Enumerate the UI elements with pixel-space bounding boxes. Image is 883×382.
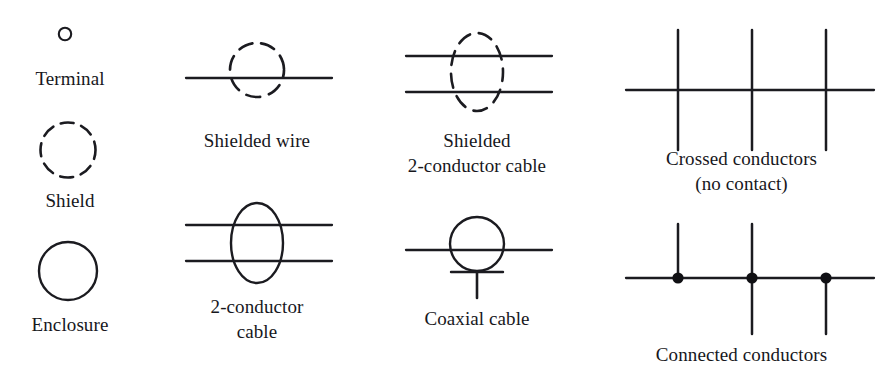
- symbol-shielded-two-conductor-cable-label-line1: Shielded: [372, 128, 582, 153]
- symbol-two-conductor-cable: 2-conductor cable: [152, 198, 362, 348]
- connected-conductors-icon: [600, 216, 883, 341]
- symbol-shielded-two-conductor-cable: Shielded 2-conductor cable: [372, 22, 582, 182]
- shielded-wire-icon: [152, 30, 362, 126]
- crossed-conductors-icon: [600, 20, 883, 145]
- two-conductor-cable-icon: [152, 198, 362, 294]
- symbol-two-conductor-cable-label-line2: cable: [152, 319, 362, 344]
- symbol-crossed-conductors-label-line1: Crossed conductors: [600, 146, 883, 171]
- symbol-legend-figure: Terminal Shield Enclosure Shielded wire …: [0, 0, 883, 382]
- symbol-two-conductor-cable-label-line1: 2-conductor: [152, 294, 362, 319]
- symbol-shielded-wire: Shielded wire: [152, 30, 362, 160]
- symbol-terminal-label: Terminal: [0, 66, 140, 91]
- coaxial-cable-icon: [372, 206, 582, 306]
- junction-dot: [746, 272, 757, 283]
- symbol-terminal: Terminal: [0, 14, 140, 104]
- enclosure-icon: [0, 238, 140, 306]
- symbol-enclosure: Enclosure: [0, 238, 140, 348]
- symbol-connected-conductors: Connected conductors: [600, 216, 883, 366]
- junction-dot: [820, 272, 831, 283]
- symbol-crossed-conductors-label-line2: (no contact): [600, 171, 883, 196]
- symbol-shielded-two-conductor-cable-label-line2: 2-conductor cable: [372, 153, 582, 178]
- junction-dot: [672, 272, 683, 283]
- symbol-crossed-conductors: Crossed conductors (no contact): [600, 20, 883, 190]
- symbol-shield-label: Shield: [0, 188, 140, 213]
- symbol-coaxial-cable-label: Coaxial cable: [372, 306, 582, 331]
- symbol-connected-conductors-label: Connected conductors: [600, 342, 883, 367]
- shield-icon: [0, 118, 140, 184]
- symbol-coaxial-cable: Coaxial cable: [372, 206, 582, 346]
- shielded-two-conductor-cable-icon: [372, 22, 582, 126]
- terminal-icon: [0, 14, 140, 60]
- symbol-shielded-wire-label: Shielded wire: [152, 128, 362, 153]
- symbol-shield: Shield: [0, 118, 140, 218]
- symbol-enclosure-label: Enclosure: [0, 312, 140, 337]
